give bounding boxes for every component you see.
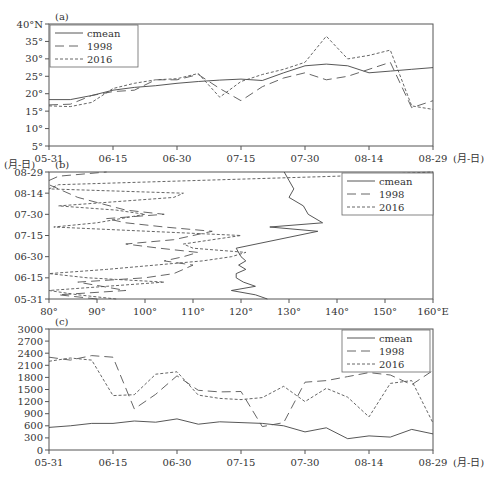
x-tick-label: 07-30 [291,457,320,468]
x-axis-unit: (月-日) [453,153,484,164]
y-tick-label: 35° [25,36,43,47]
y-tick-label: 40°N [17,19,44,30]
x-tick-label: 100° [133,306,157,317]
y-tick-label: 1500 [18,384,43,395]
x-tick-label: 130° [277,306,301,317]
y-tick-label: 10° [25,123,43,134]
x-tick-label: 08-14 [355,153,384,164]
x-axis-unit: (月-日) [453,457,484,468]
y-tick-label: 5° [32,141,43,152]
y-tick-label: 20° [25,88,43,99]
x-tick-label: 07-15 [227,457,256,468]
x-tick-label: 08-29 [419,457,448,468]
series-1998 [49,62,433,107]
y-tick-label: 08-29 [14,167,43,178]
panel-label: (b) [55,159,69,170]
y-tick-label: 2100 [18,360,43,371]
y-tick-label: 3000 [18,324,43,335]
y-tick-label: 06-15 [14,272,43,283]
series-cmean [49,64,433,100]
x-tick-label: 06-15 [99,153,128,164]
y-tick-label: 08-14 [14,188,43,199]
x-tick-label: 110° [181,306,205,317]
y-tick-label: 25° [25,71,43,82]
figure: (a)5°10°15°20°25°30°35°40°N05-3106-1506-… [0,0,495,477]
y-tick-label: 900 [24,408,43,419]
x-tick-label: 08-14 [355,457,384,468]
legend-label-1998: 1998 [379,346,404,357]
panel-b: (b)(月-日)05-3106-1506-3007-1507-3008-1408… [4,159,449,317]
x-tick-label: 160°E [417,306,448,317]
x-tick-label: 07-15 [227,153,256,164]
legend-label-2016: 2016 [379,359,404,370]
y-tick-label: 07-30 [14,209,43,220]
panel-a: (a)5°10°15°20°25°30°35°40°N05-3106-1506-… [17,11,485,164]
y-tick-label: 1200 [18,396,43,407]
x-tick-label: 08-29 [419,153,448,164]
x-tick-label: 150° [373,306,397,317]
x-tick-label: 06-15 [99,457,128,468]
x-tick-label: 120° [229,306,253,317]
legend-label-1998: 1998 [379,189,404,200]
x-tick-label: 05-31 [35,457,64,468]
x-tick-label: 90° [88,306,106,317]
legend-label-2016: 2016 [379,202,404,213]
series-cmean [49,419,433,439]
y-tick-label: 15° [25,106,43,117]
legend-label-2016: 2016 [87,54,112,65]
legend-label-1998: 1998 [87,41,112,52]
y-tick-label: 0 [37,445,43,456]
y-tick-label: 05-31 [14,294,43,305]
y-tick-label: 30° [25,53,43,64]
y-tick-label: 07-15 [14,230,43,241]
legend-label-cmean: cmean [379,333,413,344]
x-tick-label: 140° [325,306,349,317]
panel-c: (c)0300600900120015001800210024002700300… [18,316,485,468]
y-tick-label: 300 [24,432,43,443]
x-tick-label: 07-30 [291,153,320,164]
y-tick-label: 06-30 [14,251,43,262]
x-tick-label: 06-30 [163,457,192,468]
y-tick-label: 600 [24,420,43,431]
y-tick-label: 1800 [18,372,43,383]
y-tick-label: 2700 [18,336,43,347]
x-tick-label: 06-30 [163,153,192,164]
legend-label-cmean: cmean [379,176,413,187]
y-tick-label: 2400 [18,348,43,359]
legend-label-cmean: cmean [87,28,121,39]
series-cmean [231,172,322,299]
panel-label: (c) [55,316,69,327]
panel-label: (a) [55,11,69,22]
